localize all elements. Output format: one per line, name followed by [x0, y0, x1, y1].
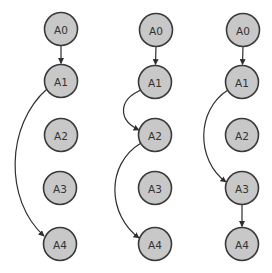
- node-a4: A4: [226, 228, 259, 261]
- panel-3: A0A1A2A3A4: [204, 14, 260, 261]
- node-a1: A1: [45, 65, 78, 98]
- edge-a1-to-a3: [204, 90, 228, 182]
- node-a2: A2: [45, 119, 78, 152]
- node-a0: A0: [227, 14, 260, 47]
- edge-a2-to-a4: [115, 143, 141, 238]
- node-label: A0: [149, 25, 163, 37]
- panel-1: A0A1A2A3A4: [15, 13, 77, 261]
- diagram-canvas: A0A1A2A3A4A0A1A2A3A4A0A1A2A3A4: [0, 0, 272, 273]
- node-label: A3: [148, 183, 162, 195]
- node-label: A4: [53, 239, 67, 251]
- edge-a1-to-a2: [123, 90, 141, 130]
- node-a3: A3: [226, 172, 259, 205]
- edge-a0-to-a1: [156, 47, 157, 65]
- node-a1: A1: [226, 66, 259, 99]
- node-label: A3: [235, 183, 249, 195]
- node-a2: A2: [139, 119, 172, 152]
- node-a3: A3: [139, 172, 172, 205]
- panel-2: A0A1A2A3A4: [115, 14, 173, 261]
- node-label: A4: [148, 239, 162, 251]
- node-a0: A0: [140, 14, 173, 47]
- node-label: A4: [235, 239, 249, 251]
- node-a1: A1: [139, 66, 172, 99]
- node-label: A0: [54, 24, 68, 36]
- node-label: A0: [236, 25, 250, 37]
- node-label: A1: [54, 76, 68, 88]
- node-a4: A4: [44, 228, 77, 261]
- edge-a0-to-a1: [243, 47, 244, 65]
- node-label: A1: [235, 77, 249, 89]
- graph-panels: A0A1A2A3A4A0A1A2A3A4A0A1A2A3A4: [15, 13, 259, 261]
- node-label: A2: [148, 130, 162, 142]
- edge-a1-to-a4: [15, 89, 47, 236]
- node-a4: A4: [139, 228, 172, 261]
- node-a0: A0: [45, 13, 78, 46]
- node-a2: A2: [226, 119, 259, 152]
- node-label: A2: [54, 130, 68, 142]
- node-label: A3: [53, 183, 67, 195]
- node-label: A1: [148, 77, 162, 89]
- node-a3: A3: [44, 172, 77, 205]
- node-label: A2: [235, 130, 249, 142]
